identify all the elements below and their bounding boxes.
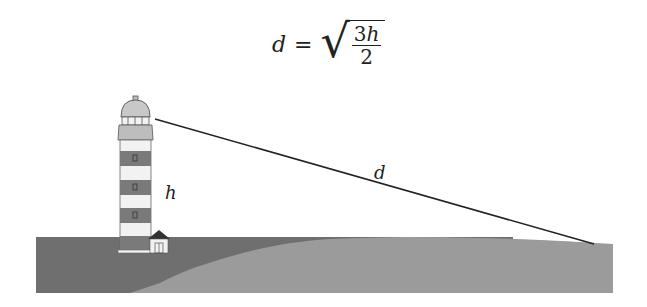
land-right [400, 237, 613, 293]
numerator-coefficient: 3 [354, 22, 367, 46]
distance-formula: d = √ 3h 2 [272, 20, 385, 68]
lighthouse-diagram: d = √ 3h 2 h d [0, 0, 647, 307]
height-label: h [165, 182, 177, 203]
formula-equals: = [294, 32, 312, 57]
fraction-denominator: 2 [360, 46, 373, 68]
radicand: 3h 2 [348, 20, 386, 68]
formula-lhs: d [272, 32, 286, 57]
radical-sign-icon: √ [321, 18, 350, 66]
distance-label: d [374, 162, 386, 183]
fraction-numerator: 3h [352, 23, 382, 46]
lighthouse [118, 96, 153, 253]
square-root: √ 3h 2 [321, 20, 386, 68]
numerator-variable: h [367, 22, 380, 46]
